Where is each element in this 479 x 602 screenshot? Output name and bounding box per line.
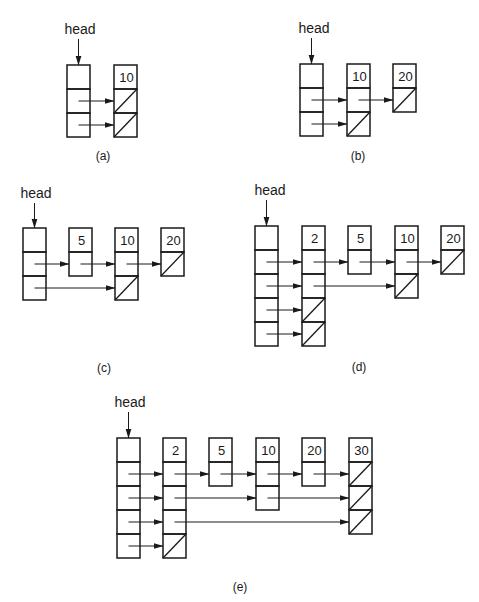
panel-caption: (a) xyxy=(96,149,111,163)
node-value: 2 xyxy=(172,443,179,458)
panel-e: head25102030(e) xyxy=(114,394,372,594)
null-pointer-slash-icon xyxy=(395,274,418,298)
list-node-5: 5 xyxy=(209,438,232,486)
list-node-20: 20 xyxy=(161,228,184,276)
skip-list-diagram: head10(a)head1020(b)head51020(c)head2510… xyxy=(0,0,479,602)
list-node-20: 20 xyxy=(441,226,464,274)
null-pointer-slash-icon xyxy=(347,112,370,136)
node-value: 10 xyxy=(352,69,366,84)
panel-caption: (d) xyxy=(352,360,367,374)
list-node-5: 5 xyxy=(69,228,92,276)
list-node-30: 30 xyxy=(349,438,372,534)
null-pointer-slash-icon xyxy=(115,276,138,300)
list-node-20: 20 xyxy=(302,438,325,486)
head-label: head xyxy=(20,185,51,201)
node-value: 20 xyxy=(166,233,180,248)
null-pointer-slash-icon xyxy=(114,89,137,113)
node-value: 20 xyxy=(307,443,321,458)
panel-b: head1020(b) xyxy=(298,20,416,163)
list-node-5: 5 xyxy=(348,226,371,274)
null-pointer-slash-icon xyxy=(349,510,372,534)
panel-caption: (c) xyxy=(97,361,111,375)
head-cell xyxy=(300,64,323,88)
head-label: head xyxy=(114,394,145,410)
list-node-10: 10 xyxy=(114,65,137,137)
head-label: head xyxy=(298,20,329,36)
node-value: 5 xyxy=(357,231,364,246)
node-value: 10 xyxy=(261,443,275,458)
node-value: 30 xyxy=(354,443,368,458)
null-pointer-slash-icon xyxy=(393,88,416,112)
node-value: 10 xyxy=(119,70,133,85)
node-value: 20 xyxy=(446,231,460,246)
head-cell xyxy=(117,438,140,462)
null-pointer-slash-icon xyxy=(114,113,137,137)
node-value: 10 xyxy=(400,231,414,246)
head-label: head xyxy=(254,182,285,198)
panel-c: head51020(c) xyxy=(20,185,184,375)
head-cell xyxy=(255,226,278,250)
panel-d: head251020(d) xyxy=(254,182,464,374)
head-cell xyxy=(23,228,46,252)
node-value: 2 xyxy=(311,231,318,246)
head-label: head xyxy=(64,21,95,37)
null-pointer-slash-icon xyxy=(161,252,184,276)
list-node-20: 20 xyxy=(393,64,416,112)
null-pointer-slash-icon xyxy=(302,298,325,322)
node-value: 20 xyxy=(398,69,412,84)
panel-caption: (e) xyxy=(233,580,248,594)
null-pointer-slash-icon xyxy=(441,250,464,274)
panel-caption: (b) xyxy=(351,149,366,163)
null-pointer-slash-icon xyxy=(302,322,325,346)
null-pointer-slash-icon xyxy=(349,462,372,486)
panel-a: head10(a) xyxy=(64,21,137,163)
node-value: 10 xyxy=(120,233,134,248)
null-pointer-slash-icon xyxy=(349,486,372,510)
node-value: 5 xyxy=(218,443,225,458)
null-pointer-slash-icon xyxy=(163,534,186,558)
head-cell xyxy=(67,65,90,89)
node-value: 5 xyxy=(78,233,85,248)
